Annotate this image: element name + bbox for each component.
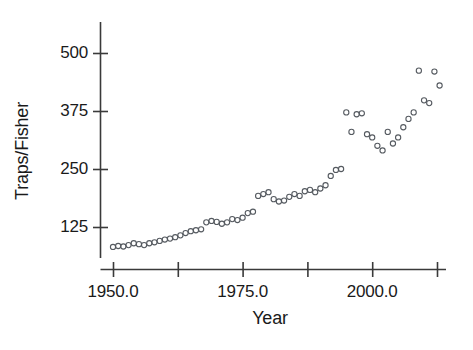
data-point bbox=[162, 237, 167, 242]
data-point bbox=[375, 143, 380, 148]
data-point bbox=[297, 193, 302, 198]
data-point bbox=[199, 227, 204, 232]
data-point bbox=[230, 217, 235, 222]
data-point bbox=[193, 228, 198, 233]
data-point bbox=[396, 135, 401, 140]
data-point bbox=[281, 198, 286, 203]
data-point bbox=[116, 243, 121, 248]
data-point bbox=[152, 240, 157, 245]
scatter-chart-figure: 125250375500 1950.01975.02000.0 Traps/Fi… bbox=[0, 0, 473, 350]
data-point bbox=[157, 238, 162, 243]
data-point bbox=[276, 199, 281, 204]
data-point bbox=[147, 241, 152, 246]
x-tick-label: 1975.0 bbox=[217, 282, 268, 302]
data-point bbox=[416, 68, 421, 73]
data-point bbox=[370, 135, 375, 140]
data-point bbox=[183, 230, 188, 235]
data-point bbox=[323, 183, 328, 188]
data-point bbox=[224, 220, 229, 225]
data-point bbox=[266, 190, 271, 195]
data-point bbox=[287, 194, 292, 199]
data-point bbox=[121, 244, 126, 249]
data-point bbox=[302, 189, 307, 194]
x-tick-label: 2000.0 bbox=[347, 282, 398, 302]
data-point bbox=[240, 215, 245, 220]
data-point bbox=[421, 98, 426, 103]
data-point bbox=[432, 69, 437, 74]
x-tick-label: 1950.0 bbox=[88, 282, 139, 302]
data-point bbox=[204, 220, 209, 225]
data-point bbox=[437, 83, 442, 88]
data-point bbox=[318, 186, 323, 191]
data-point-group bbox=[110, 68, 442, 250]
data-point bbox=[307, 187, 312, 192]
x-axis-title: Year bbox=[252, 308, 288, 329]
data-point bbox=[359, 111, 364, 116]
data-point bbox=[427, 101, 432, 106]
data-point bbox=[136, 242, 141, 247]
data-point bbox=[333, 167, 338, 172]
data-point bbox=[131, 241, 136, 246]
data-point bbox=[411, 110, 416, 115]
data-point bbox=[339, 166, 344, 171]
data-point bbox=[173, 235, 178, 240]
data-point bbox=[313, 190, 318, 195]
y-tick-label: 500 bbox=[60, 43, 88, 63]
data-point bbox=[328, 173, 333, 178]
data-point bbox=[261, 191, 266, 196]
y-tick-label: 375 bbox=[60, 101, 88, 121]
y-tick-label: 125 bbox=[60, 217, 88, 237]
data-point bbox=[271, 197, 276, 202]
data-point bbox=[219, 221, 224, 226]
data-point bbox=[167, 236, 172, 241]
data-point bbox=[209, 218, 214, 223]
data-point bbox=[401, 125, 406, 130]
data-point bbox=[110, 244, 115, 249]
data-point bbox=[126, 243, 131, 248]
data-point bbox=[354, 112, 359, 117]
data-point bbox=[364, 132, 369, 137]
data-point bbox=[256, 193, 261, 198]
y-tick-label: 250 bbox=[60, 159, 88, 179]
data-point bbox=[245, 210, 250, 215]
data-point bbox=[188, 229, 193, 234]
data-point bbox=[292, 191, 297, 196]
data-point bbox=[406, 116, 411, 121]
data-point bbox=[344, 110, 349, 115]
y-axis-title: Traps/Fisher bbox=[12, 102, 33, 200]
data-point bbox=[390, 141, 395, 146]
data-point bbox=[385, 129, 390, 134]
data-point bbox=[214, 219, 219, 224]
data-point bbox=[349, 129, 354, 134]
data-point bbox=[178, 233, 183, 238]
data-point bbox=[380, 148, 385, 153]
data-point bbox=[142, 243, 147, 248]
data-point bbox=[250, 209, 255, 214]
data-point bbox=[235, 217, 240, 222]
